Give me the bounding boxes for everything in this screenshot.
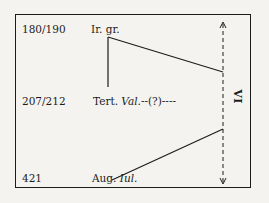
axis-label-vi: VI: [231, 89, 244, 104]
date-label-1: 180/190: [22, 23, 66, 35]
source-text: Aug.: [92, 172, 120, 184]
irenaeus-slant-line: [108, 37, 223, 72]
source-italic-text: Val.: [121, 95, 141, 107]
source-italic-text: Iul.: [120, 172, 138, 184]
source-label-tertullian: Tert. Val.--(?)----: [93, 95, 176, 107]
date-label-3: 421: [22, 172, 42, 184]
source-label-augustine: Aug. Iul.: [92, 172, 137, 184]
date-label-2: 207/212: [22, 95, 66, 107]
uncertain-dashed-text: --(?)----: [141, 95, 176, 107]
source-label-irenaeus: Ir. gr.: [91, 23, 120, 35]
source-text: Tert.: [93, 95, 121, 107]
